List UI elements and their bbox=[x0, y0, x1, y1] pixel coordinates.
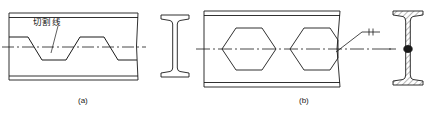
cutting-line-leader bbox=[51, 26, 58, 53]
weld-symbol-leader bbox=[336, 29, 380, 53]
beam-a-break-edge bbox=[137, 13, 139, 80]
figure-svg bbox=[0, 0, 431, 119]
panel-b-beam-elevation bbox=[196, 11, 392, 87]
beam-a-outline bbox=[9, 13, 138, 80]
ibeam-a-outline bbox=[161, 15, 189, 77]
panel-b-cross-section bbox=[386, 11, 423, 85]
caption-a: (a) bbox=[78, 96, 88, 105]
figure-castellated-beam: 切割线 (a) (b) bbox=[0, 0, 431, 119]
weld-node bbox=[404, 46, 412, 53]
panel-a-beam-elevation bbox=[2, 13, 146, 80]
caption-b: (b) bbox=[299, 96, 309, 105]
cutting-line-label: 切割线 bbox=[33, 15, 61, 27]
cutting-line-path bbox=[9, 37, 137, 60]
panel-a-cross-section bbox=[161, 15, 189, 77]
